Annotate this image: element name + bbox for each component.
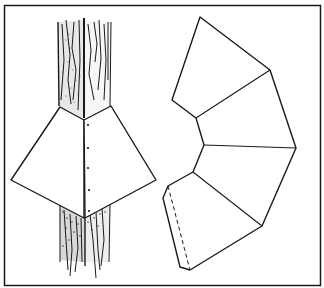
unfolded-pattern	[163, 17, 296, 270]
assembled-guard	[11, 106, 156, 218]
pattern-outline	[163, 17, 296, 270]
figure	[0, 0, 324, 288]
diagram-canvas	[0, 0, 324, 288]
guard-left-panel	[11, 107, 84, 218]
guard-right-panel	[84, 106, 156, 218]
